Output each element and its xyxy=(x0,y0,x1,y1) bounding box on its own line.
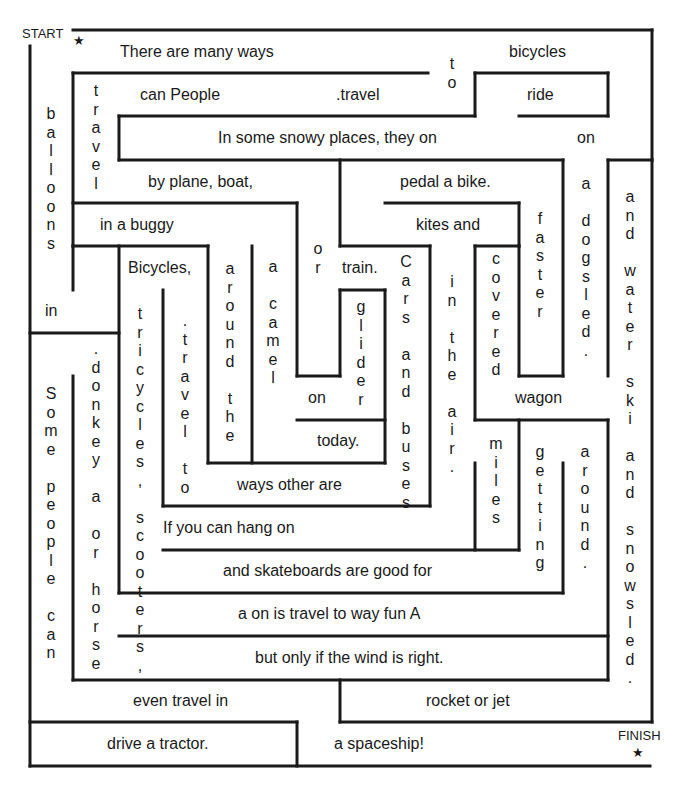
phrase-on-mid: on xyxy=(308,389,326,407)
phrase-glider: glider xyxy=(353,298,369,409)
phrase-miles: miles xyxy=(488,435,504,528)
phrase-bicycles: bicycles xyxy=(509,43,566,61)
phrase-or: or xyxy=(310,240,326,277)
phrase-a-camel: a camel xyxy=(265,258,281,388)
phrase-if-you-can-hang-on: If you can hang on xyxy=(163,519,295,537)
phrase-can-people: can People xyxy=(140,86,220,104)
phrase-by-plane-boat: by plane, boat, xyxy=(148,173,253,191)
phrase-around-the: around the xyxy=(222,260,238,445)
phrase-balloons: balloons xyxy=(43,105,59,253)
phrase-and-skateboards: and skateboards are good for xyxy=(223,562,432,580)
phrase-train: train. xyxy=(342,259,378,277)
phrase-but-only-if: but only if the wind is right. xyxy=(255,649,444,667)
phrase-donkey-or-horse: .donkey a or horse xyxy=(88,340,104,673)
phrase-drive-a-tractor: drive a tractor. xyxy=(107,735,208,753)
phrase-kites-and: kites and xyxy=(416,216,480,234)
phrase-pedal-a-bike: pedal a bike. xyxy=(400,173,491,191)
start-star-icon: ★ xyxy=(73,33,85,48)
finish-label: FINISH xyxy=(618,728,661,743)
phrase-to-top: to xyxy=(444,55,460,92)
phrase-travel-left: travel xyxy=(88,82,104,193)
phrase-bicycles-comma: Bicycles, xyxy=(128,259,191,277)
phrase-getting: getting xyxy=(532,443,548,573)
phrase-there-are-many-ways: There are many ways xyxy=(120,43,274,61)
phrase-in-the-air: in the air. xyxy=(444,273,460,477)
finish-star-icon: ★ xyxy=(632,745,644,760)
phrase-today: today. xyxy=(317,432,359,450)
phrase-faster: faster xyxy=(532,210,548,321)
phrase-in-some-snowy: In some snowy places, they on xyxy=(218,129,437,147)
phrase-covered: covered xyxy=(488,250,504,380)
phrase-travel-dot: .travel xyxy=(336,86,380,104)
phrase-a-spaceship: a spaceship! xyxy=(334,735,424,753)
phrase-a-dogsled: a dogsled. xyxy=(578,175,594,375)
phrase-in-left: in xyxy=(45,302,57,320)
phrase-tricycles-scooters: tricycles, scooters, xyxy=(132,305,148,675)
phrase-around-dot: around. xyxy=(577,443,593,573)
phrase-even-travel-in: even travel in xyxy=(133,692,228,710)
phrase-cars-and-buses: Cars and buses xyxy=(398,253,414,512)
phrase-on-right: on xyxy=(577,129,595,147)
phrase-wagon: wagon xyxy=(515,389,562,407)
phrase-ways-other-are: ways other are xyxy=(237,476,342,494)
phrase-a-on-is-travel: a on is travel to way fun A xyxy=(238,605,420,623)
start-label: START xyxy=(22,26,63,41)
phrase-ride: ride xyxy=(527,86,554,104)
phrase-in-a-buggy: in a buggy xyxy=(100,216,174,234)
phrase-travel-to: .travel to xyxy=(177,312,193,497)
phrase-some-people-can: Some people can xyxy=(43,385,59,663)
phrase-and-water-ski: and water ski and snowsled. xyxy=(622,188,638,698)
phrase-rocket-or-jet: rocket or jet xyxy=(426,692,510,710)
